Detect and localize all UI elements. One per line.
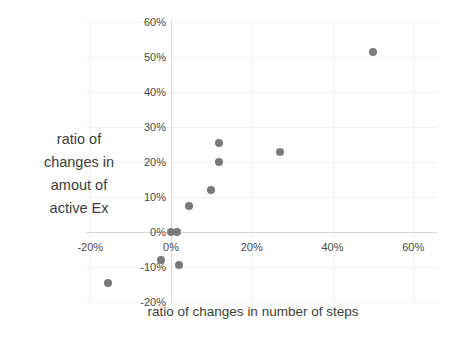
data-point <box>175 261 183 269</box>
x-tick-label: 40% <box>311 241 355 254</box>
y-tick-label: 50% <box>118 50 166 64</box>
x-tick-label: 0% <box>149 241 193 254</box>
y-tick-label: 0% <box>118 225 166 239</box>
y-axis-title: ratio of changes in amout of active Ex <box>22 128 136 220</box>
x-axis-title: ratio of changes in number of steps <box>120 303 386 321</box>
data-point <box>207 186 215 194</box>
data-point <box>104 279 112 287</box>
data-point <box>157 256 165 264</box>
x-gridline <box>252 20 253 303</box>
x-tick-label: -20% <box>68 241 112 254</box>
x-gridline <box>333 20 334 303</box>
x-tick-label: 20% <box>230 241 274 254</box>
data-point <box>173 228 181 236</box>
data-point <box>215 139 223 147</box>
y-tick-label: 60% <box>118 15 166 29</box>
y-tick-label: 40% <box>118 85 166 99</box>
y-axis-line <box>171 20 172 303</box>
data-point <box>215 158 223 166</box>
data-point <box>369 48 377 56</box>
scatter-chart: -20%0%20%40%60%60%50%40%30%20%10%0%-10%-… <box>0 0 453 347</box>
data-point <box>276 148 284 156</box>
data-point <box>185 202 193 210</box>
x-tick-label: 60% <box>391 241 435 254</box>
x-gridline <box>413 20 414 303</box>
